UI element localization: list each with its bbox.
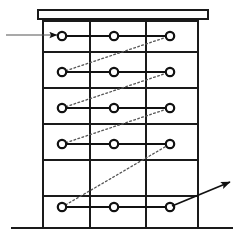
diagram-canvas [0,0,243,244]
node-row5-col2 [110,203,118,211]
node-row3-col1 [58,104,66,112]
node-row3-col2 [110,104,118,112]
node-row2-col3 [166,68,174,76]
node-row4-col3 [166,140,174,148]
top-cap-bar [38,10,208,19]
node-row4-col1 [58,140,66,148]
node-row1-col2 [110,32,118,40]
node-row5-col1 [58,203,66,211]
node-row1-col3 [166,32,174,40]
node-row1-col1 [58,32,66,40]
node-row5-col3 [166,203,174,211]
node-row2-col2 [110,68,118,76]
node-row2-col1 [58,68,66,76]
node-row3-col3 [166,104,174,112]
schematic-diagram [0,0,243,244]
node-row4-col2 [110,140,118,148]
